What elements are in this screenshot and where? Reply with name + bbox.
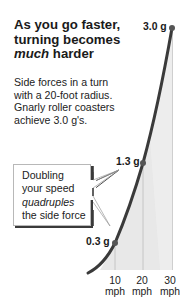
data-point-20mph: [140, 160, 146, 166]
callout-line-1: Doubling: [22, 169, 86, 182]
callout-line-3: quadruples: [22, 196, 86, 209]
point-label-3-0g: 3.0 g: [143, 21, 167, 32]
x-tick-20mph: 20 mph: [127, 275, 157, 297]
x-tick-10mph: 10 mph: [100, 275, 130, 297]
point-label-1-3g: 1.3 g: [116, 156, 140, 167]
chart-plot: [0, 0, 191, 305]
callout-pointer-upper: [93, 170, 119, 196]
data-point-30mph: [169, 25, 175, 31]
x-tick-30mph: 30 mph: [155, 275, 185, 297]
callout-text: Doubling your speed quadruples the side …: [22, 169, 86, 222]
callout-line-2: your speed: [22, 182, 86, 195]
callout-pointer-lower: [93, 202, 110, 226]
point-label-0-3g: 0.3 g: [86, 236, 110, 247]
callout-line-4: the side force: [22, 209, 86, 222]
callout-pointer-gap: [90, 180, 96, 200]
data-point-10mph: [112, 240, 118, 246]
annotation-callout: Doubling your speed quadruples the side …: [13, 164, 91, 226]
